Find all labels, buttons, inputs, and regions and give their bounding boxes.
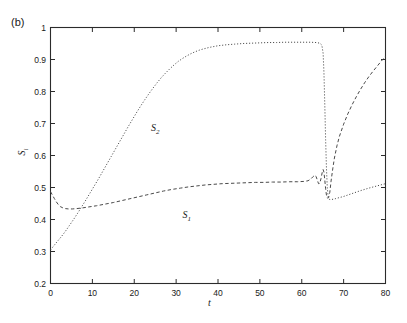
axes-frame <box>51 28 386 284</box>
x-tick-label: 70 <box>339 288 348 298</box>
x-axis-label: t <box>208 297 211 308</box>
y-tick-label: 0.6 <box>20 151 46 161</box>
series-line-S2 <box>51 42 386 250</box>
x-tick-label: 50 <box>255 288 264 298</box>
y-tick-label: 0.8 <box>20 87 46 97</box>
figure-panel-b: (b) Si t 0.20.30.40.50.60.70.80.91010203… <box>0 0 407 323</box>
y-tick-label: 0.2 <box>20 279 46 289</box>
y-tick-label: 0.3 <box>20 247 46 257</box>
x-tick-label: 40 <box>213 288 222 298</box>
axis-ticks <box>51 28 386 284</box>
plot-area <box>0 0 407 323</box>
x-tick-label: 10 <box>88 288 97 298</box>
series-line-S1 <box>51 56 386 209</box>
y-tick-label: 1 <box>20 23 46 33</box>
x-tick-label: 0 <box>48 288 53 298</box>
x-tick-label: 30 <box>171 288 180 298</box>
curve-label-S2: S2 <box>151 122 160 136</box>
x-tick-label: 60 <box>297 288 306 298</box>
y-tick-label: 0.7 <box>20 119 46 129</box>
y-tick-label: 0.9 <box>20 55 46 65</box>
x-tick-label: 20 <box>130 288 139 298</box>
y-tick-label: 0.5 <box>20 183 46 193</box>
data-series-group <box>51 42 386 250</box>
y-tick-label: 0.4 <box>20 215 46 225</box>
x-tick-label: 80 <box>381 288 390 298</box>
curve-label-S1: S1 <box>182 209 191 223</box>
